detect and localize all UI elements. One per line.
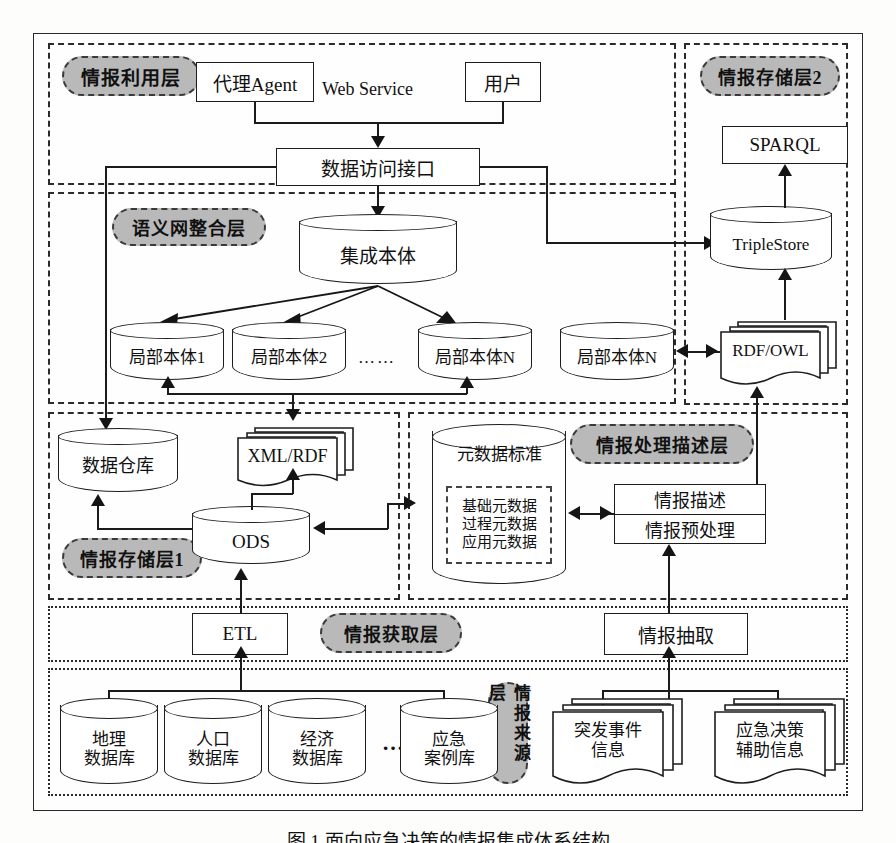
node-user[interactable]: 用户 xyxy=(465,62,541,102)
doc-bus xyxy=(602,690,778,692)
metadata-items-group: 基础元数据 过程元数据 应用元数据 xyxy=(446,486,552,564)
edge-extraction-to-preprocess-2 xyxy=(668,556,670,606)
node-db-economy-label: 经济 数据库 xyxy=(268,714,366,784)
node-sparql[interactable]: SPARQL xyxy=(722,126,848,164)
node-doc-incident[interactable]: 突发事件 信息 xyxy=(548,694,688,790)
edge-ods-to-warehouse-h xyxy=(97,528,193,530)
arrow-ods-to-warehouse xyxy=(91,494,105,506)
node-local-ontology-1-label: 局部本体1 xyxy=(110,335,224,380)
figure-caption: 图 1 面向应急决策的情报集成体系结构 xyxy=(0,826,896,843)
arrow-into-ods xyxy=(313,521,325,535)
node-db-population[interactable]: 人口 数据库 xyxy=(164,698,262,784)
local-ontology-ellipsis: …… xyxy=(358,348,396,368)
arrow-triplestore-to-sparql xyxy=(778,164,792,176)
arrow-etl-to-ods xyxy=(234,568,248,580)
node-intel-description[interactable]: 情报描述 xyxy=(615,485,765,515)
node-db-economy[interactable]: 经济 数据库 xyxy=(268,698,366,784)
node-intel-extraction[interactable]: 情报抽取 xyxy=(604,613,748,655)
edge-user-down xyxy=(502,102,504,123)
arrow-extraction-to-preprocess xyxy=(662,544,676,556)
node-db-geo[interactable]: 地理 数据库 xyxy=(60,698,158,784)
node-data-access-api[interactable]: 数据访问接口 xyxy=(276,148,480,186)
node-triplestore[interactable]: TripleStore xyxy=(710,206,832,270)
node-local-ontology-n2-label: 局部本体N xyxy=(560,335,674,380)
node-ods[interactable]: ODS xyxy=(192,506,310,564)
node-xml-rdf-label: XML/RDF xyxy=(238,441,337,471)
arrow-localn2-to-rdfowl xyxy=(706,344,718,358)
edge-ods-to-xmlrdf-h xyxy=(251,493,293,495)
edge-right-to-ods-v xyxy=(387,503,389,529)
node-data-warehouse-label: 数据仓库 xyxy=(58,441,178,492)
node-data-warehouse[interactable]: 数据仓库 xyxy=(58,428,178,492)
node-ods-label: ODS xyxy=(192,519,310,564)
layer-label-acquisition: 情报获取层 xyxy=(320,613,462,653)
node-local-ontology-n[interactable]: 局部本体N xyxy=(418,322,532,380)
layer-label-semantic: 语义网整合层 xyxy=(112,208,266,246)
node-rdf-owl[interactable]: RDF/OWL xyxy=(716,316,842,388)
arrow-to-intel-desc xyxy=(600,506,612,520)
layer-label-processing: 情报处理描述层 xyxy=(570,424,754,464)
node-intel-description-group[interactable]: 情报描述 情报预处理 xyxy=(614,484,766,544)
layer-label-storage2: 情报存储层2 xyxy=(700,56,840,96)
node-doc-decision-support-label: 应急决策 辅助信息 xyxy=(715,718,825,764)
edge-agent-user-bus xyxy=(254,122,504,124)
layer-label-storage1: 情报存储层1 xyxy=(62,538,202,578)
node-integrated-ontology[interactable]: 集成本体 xyxy=(299,214,457,284)
edge-right-to-ods-h xyxy=(324,528,388,530)
node-intel-preprocess[interactable]: 情报预处理 xyxy=(615,515,765,544)
node-db-emergency-cases[interactable]: 应急 案例库 xyxy=(400,698,498,784)
node-triplestore-label: TripleStore xyxy=(710,219,832,270)
edge-docs-to-extraction xyxy=(668,655,670,699)
node-xml-rdf[interactable]: XML/RDF xyxy=(233,424,359,490)
node-agent[interactable]: 代理Agent xyxy=(196,62,314,102)
node-metadata-standard[interactable]: 元数据标准 基础元数据 过程元数据 应用元数据 xyxy=(432,424,566,584)
node-metadata-standard-label: 元数据标准 xyxy=(432,438,566,472)
node-integrated-ontology-label: 集成本体 xyxy=(299,230,457,284)
edge-xmlrdf-bus xyxy=(167,393,467,395)
edge-ods-to-xmlrdf-v2 xyxy=(292,478,294,494)
node-local-ontology-n2[interactable]: 局部本体N xyxy=(560,322,674,380)
edge-api-left-down xyxy=(105,166,107,420)
edge-api-left-bus xyxy=(105,166,276,168)
cylinder-top xyxy=(299,214,457,231)
label-web-service: Web Service xyxy=(322,79,413,100)
layer-label-utilization: 情报利用层 xyxy=(62,56,200,96)
edge-ods-to-warehouse-v xyxy=(97,505,99,529)
edge-api-right-bus xyxy=(480,166,548,168)
arrow-docs-to-extraction xyxy=(662,646,676,658)
node-db-geo-label: 地理 数据库 xyxy=(60,714,158,784)
arrow-out-to-metadata xyxy=(404,496,416,510)
metadata-item-process: 过程元数据 xyxy=(462,516,537,534)
node-db-emergency-cases-label: 应急 案例库 xyxy=(400,714,498,784)
edge-api-right-to-triplestore xyxy=(546,242,706,244)
arrow-bus-to-xmlrdf xyxy=(286,409,300,421)
edge-api-to-ontology xyxy=(377,186,379,208)
db-bus xyxy=(108,690,444,692)
node-db-population-label: 人口 数据库 xyxy=(164,714,262,784)
figure-canvas: 情报利用层 情报存储层2 语义网整合层 情报存储层1 情报处理描述层 情报获取层… xyxy=(0,0,896,843)
edge-sources-to-etl xyxy=(240,655,242,691)
metadata-item-application: 应用元数据 xyxy=(462,534,537,552)
edge-agent-down xyxy=(254,102,256,123)
edge-etl-to-ods xyxy=(240,580,242,614)
node-local-ontology-2-label: 局部本体2 xyxy=(232,335,346,380)
arrow-intel-desc-to-rdfowl xyxy=(750,386,764,398)
node-rdf-owl-label: RDF/OWL xyxy=(721,336,820,366)
arrow-rdfowl-to-localn2 xyxy=(676,344,688,358)
arrow-sources-to-etl xyxy=(234,646,248,658)
node-local-ontology-1[interactable]: 局部本体1 xyxy=(110,322,224,380)
edge-api-right-down xyxy=(546,166,548,243)
arrow-to-metadata xyxy=(568,506,580,520)
node-local-ontology-n-label: 局部本体N xyxy=(418,335,532,380)
edge-ods-to-xmlrdf-v1 xyxy=(251,494,253,510)
arrow-bus-to-api xyxy=(371,136,385,148)
node-doc-incident-label: 突发事件 信息 xyxy=(553,718,663,764)
node-local-ontology-2[interactable]: 局部本体2 xyxy=(232,322,346,380)
node-doc-decision-support[interactable]: 应急决策 辅助信息 xyxy=(710,694,850,790)
metadata-item-basic: 基础元数据 xyxy=(462,498,537,516)
